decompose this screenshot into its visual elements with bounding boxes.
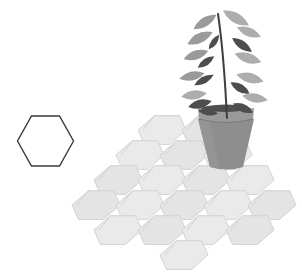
illustration-root [0, 0, 302, 275]
scene-canvas [0, 0, 302, 275]
